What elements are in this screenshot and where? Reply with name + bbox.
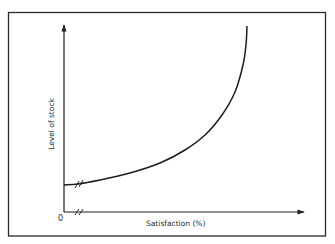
y-axis-label: Level of stock — [47, 97, 56, 149]
stock-satisfaction-chart: 0 Satisfaction (%) Level of stock — [0, 0, 335, 244]
chart-frame — [9, 13, 326, 237]
stock-curve — [64, 26, 247, 185]
x-axis-label: Satisfaction (%) — [146, 219, 205, 228]
origin-label: 0 — [58, 214, 63, 223]
